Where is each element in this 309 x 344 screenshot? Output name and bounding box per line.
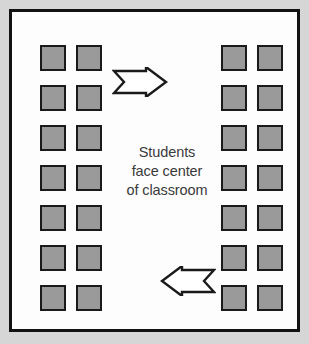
seat (40, 125, 66, 151)
seat (221, 85, 247, 111)
seat (221, 45, 247, 71)
seat (257, 125, 283, 151)
seat (257, 165, 283, 191)
seat (257, 85, 283, 111)
seat (221, 165, 247, 191)
arrow-pointing-right-icon (112, 67, 168, 101)
seat (40, 85, 66, 111)
seat (221, 205, 247, 231)
seat (40, 245, 66, 271)
seat (76, 285, 102, 311)
caption-line-1: Students (113, 143, 221, 162)
classroom-frame: Students face center of classroom (9, 9, 300, 332)
caption-line-3: of classroom (113, 181, 221, 200)
caption-line-2: face center (113, 162, 221, 181)
arrow-pointing-left-icon (160, 266, 216, 300)
seat (76, 205, 102, 231)
seat (76, 245, 102, 271)
seat (257, 245, 283, 271)
seat (76, 125, 102, 151)
seat (221, 245, 247, 271)
classroom-diagram: Students face center of classroom (0, 0, 309, 344)
seat (257, 285, 283, 311)
seat (221, 285, 247, 311)
seat (221, 125, 247, 151)
center-caption: Students face center of classroom (113, 143, 221, 200)
seat (40, 285, 66, 311)
left-seat-block (40, 45, 102, 311)
seat (40, 45, 66, 71)
seat (40, 165, 66, 191)
seat (76, 85, 102, 111)
right-seat-block (221, 45, 283, 311)
seat (40, 205, 66, 231)
seat (257, 205, 283, 231)
seat (257, 45, 283, 71)
seat (76, 45, 102, 71)
seat (76, 165, 102, 191)
